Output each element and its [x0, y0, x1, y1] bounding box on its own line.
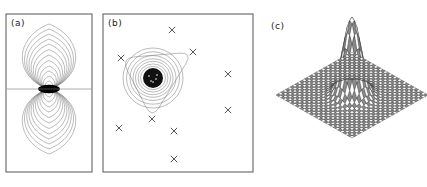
- figure-panels: (a) (b) (c): [0, 0, 427, 187]
- panel-c-canvas: [0, 0, 427, 187]
- panel-c-label: (c): [271, 21, 284, 31]
- surface-mesh: [276, 17, 427, 138]
